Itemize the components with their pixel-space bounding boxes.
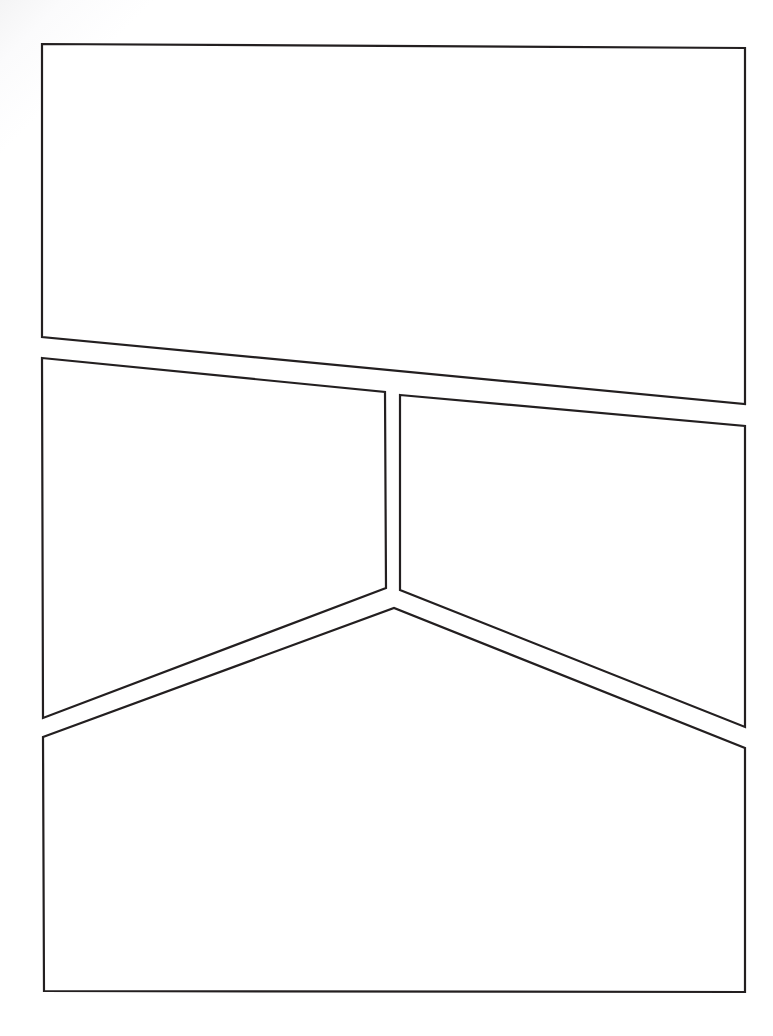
- comic-page: Panel 1 Panel 2 Panel 3 Panel 4: [0, 0, 773, 1036]
- panel-1[interactable]: [42, 44, 745, 404]
- panel-layer: [0, 0, 773, 1036]
